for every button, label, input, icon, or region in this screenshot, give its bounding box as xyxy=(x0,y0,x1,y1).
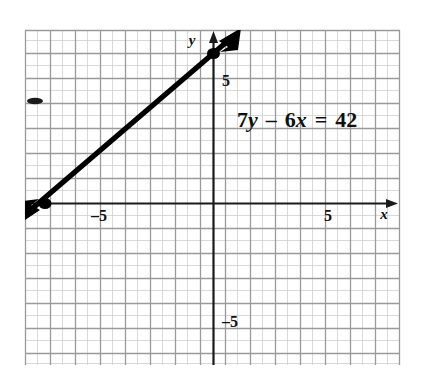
point-y-intercept xyxy=(207,48,220,59)
equation-annotation: 7y–6x=42 xyxy=(237,107,357,132)
equation-equals: = xyxy=(315,107,328,132)
equation-var-x: x xyxy=(295,107,307,132)
equation-coef-y: 7 xyxy=(237,107,248,132)
x-tick-label-negative-5: –5 xyxy=(90,207,107,224)
stray-ink-dash-icon xyxy=(27,98,43,104)
equation-constant: 42 xyxy=(335,107,357,132)
x-axis-label: x xyxy=(379,206,388,222)
x-tick-label-positive-5: 5 xyxy=(324,207,332,224)
point-x-intercept xyxy=(39,198,52,209)
coordinate-plane-svg: y x 5 –5 5 –5 7y–6x=42 xyxy=(0,0,422,384)
y-axis-label: y xyxy=(187,32,196,48)
equation-coef-x: 6 xyxy=(285,107,296,132)
y-tick-label-positive-5: 5 xyxy=(222,72,230,89)
graph-figure: y x 5 –5 5 –5 7y–6x=42 xyxy=(0,0,422,384)
equation-operator: – xyxy=(265,107,278,132)
y-tick-label-negative-5: –5 xyxy=(221,313,238,330)
